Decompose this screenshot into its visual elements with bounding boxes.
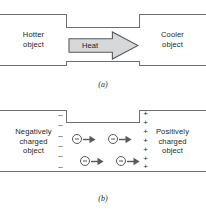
cooler-object-label-line1: Cooler xyxy=(140,30,205,40)
electron-marker xyxy=(108,134,132,144)
electron-row-1 xyxy=(66,131,140,147)
arrow-right-icon xyxy=(91,157,104,166)
cooler-object-label: Cooler object xyxy=(140,30,205,49)
arrow-right-icon xyxy=(83,135,96,144)
charge-conduction-band xyxy=(66,122,140,172)
minus-sign-icon: – xyxy=(58,152,62,160)
hotter-object-label-line1: Hotter xyxy=(1,30,66,40)
panel-b-charge-flow: Negatively charged object Positively cha… xyxy=(0,104,206,212)
block-arrow-right-icon xyxy=(68,31,139,60)
hotter-object-label-line2: object xyxy=(1,40,66,50)
heat-conduction-band: Heat xyxy=(66,27,140,62)
electron-minus-icon xyxy=(108,134,118,144)
arrow-right-icon xyxy=(119,135,132,144)
plus-sign-icon: + xyxy=(143,119,148,127)
minus-sign-icon: – xyxy=(58,111,62,119)
positive-charge-signs: +++++++ xyxy=(140,110,151,172)
electron-marker xyxy=(80,156,104,166)
electron-marker xyxy=(72,134,96,144)
plus-sign-icon: + xyxy=(143,137,148,145)
minus-sign-icon: – xyxy=(58,121,62,129)
electron-marker xyxy=(116,156,140,166)
cooler-object-box: Cooler object xyxy=(139,14,206,66)
electron-minus-icon xyxy=(116,156,126,166)
plus-sign-icon: + xyxy=(143,128,148,136)
minus-sign-icon: – xyxy=(58,142,62,150)
plus-sign-icon: + xyxy=(143,155,148,163)
negative-charge-signs: –––––– xyxy=(55,110,66,172)
panel-b-caption: (b) xyxy=(0,194,206,203)
electron-row-2 xyxy=(66,153,140,169)
panel-a-caption: (a) xyxy=(0,80,206,89)
plus-sign-icon: + xyxy=(143,163,148,171)
plus-sign-icon: + xyxy=(143,146,148,154)
minus-sign-icon: – xyxy=(58,163,62,171)
arrow-right-icon xyxy=(127,157,140,166)
electron-minus-icon xyxy=(72,134,82,144)
cooler-object-label-line2: object xyxy=(140,40,205,50)
figure-root: Hotter object Cooler object Heat (a) Neg… xyxy=(0,0,206,212)
hotter-object-box: Hotter object xyxy=(0,14,67,66)
hotter-object-label: Hotter object xyxy=(1,30,66,49)
electron-minus-icon xyxy=(80,156,90,166)
panel-a-heat-flow: Hotter object Cooler object Heat (a) xyxy=(0,0,206,100)
minus-sign-icon: – xyxy=(58,132,62,140)
plus-sign-icon: + xyxy=(143,110,148,118)
